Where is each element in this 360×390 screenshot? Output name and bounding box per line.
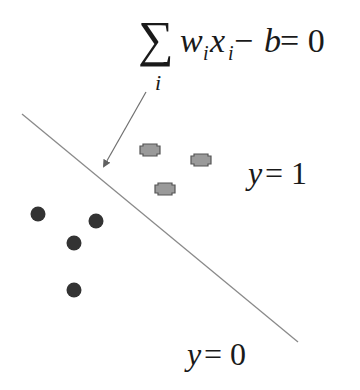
weight-subscript: i bbox=[203, 42, 209, 64]
label-class-one-eq: = 1 bbox=[265, 155, 307, 191]
equals-zero: = 0 bbox=[280, 22, 325, 59]
pointer-arrow bbox=[104, 92, 146, 166]
class-one-points bbox=[140, 144, 211, 195]
class-zero-point bbox=[67, 283, 82, 298]
class-zero-point bbox=[67, 236, 82, 251]
sum-index: i bbox=[155, 70, 161, 95]
class-one-point bbox=[155, 183, 175, 195]
label-class-zero-eq: = 0 bbox=[204, 336, 246, 372]
hyperplane-equation: ∑ i w i x i − b = 0 bbox=[138, 11, 325, 95]
class-one-point bbox=[140, 144, 160, 156]
decision-boundary-diagram: ∑ i w i x i − b = 0 y = 1 y bbox=[0, 0, 360, 390]
label-class-one-var: y bbox=[245, 155, 263, 191]
minus-sign: − bbox=[234, 22, 253, 59]
weight-symbol: w bbox=[180, 22, 203, 59]
label-class-one: y = 1 bbox=[245, 155, 307, 191]
label-class-zero-var: y bbox=[184, 336, 202, 372]
input-symbol: x bbox=[209, 22, 225, 59]
sum-symbol: ∑ bbox=[138, 11, 174, 67]
class-zero-point bbox=[31, 207, 46, 222]
label-class-zero: y = 0 bbox=[184, 336, 246, 372]
class-zero-points bbox=[31, 207, 104, 298]
class-one-point bbox=[191, 154, 211, 166]
input-subscript: i bbox=[228, 42, 234, 64]
bias-symbol: b bbox=[264, 22, 281, 59]
class-zero-point bbox=[89, 214, 104, 229]
